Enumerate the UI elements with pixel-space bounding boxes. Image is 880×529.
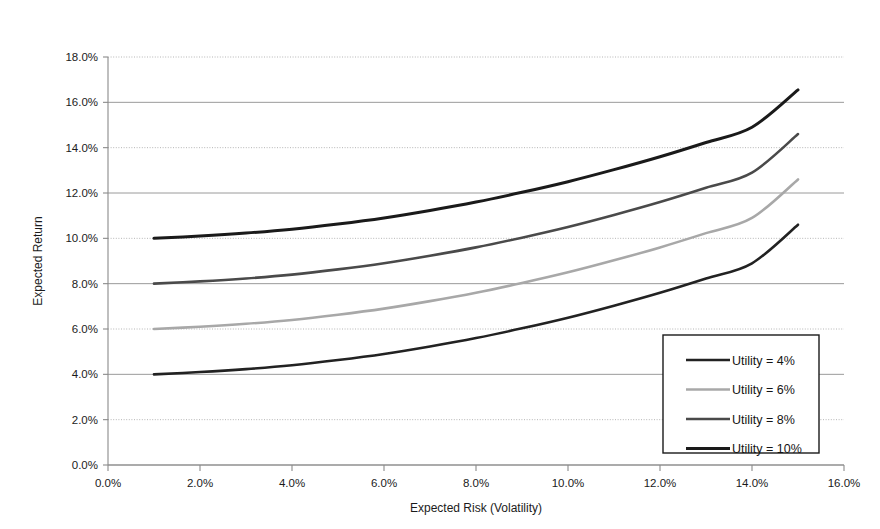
x-tick-label: 12.0% bbox=[644, 477, 677, 489]
y-tick-label: 18.0% bbox=[65, 51, 98, 63]
legend-label: Utility = 8% bbox=[732, 413, 795, 427]
x-tick-label: 0.0% bbox=[95, 477, 121, 489]
x-tick-label: 16.0% bbox=[828, 477, 861, 489]
indifference-curves-chart: 0.0%2.0%4.0%6.0%8.0%10.0%12.0%14.0%16.0%… bbox=[0, 0, 880, 529]
y-tick-label: 12.0% bbox=[65, 187, 98, 199]
x-tick-label: 10.0% bbox=[552, 477, 585, 489]
y-tick-label: 0.0% bbox=[72, 459, 98, 471]
legend-label: Utility = 10% bbox=[732, 442, 802, 456]
y-tick-label: 10.0% bbox=[65, 232, 98, 244]
legend-label: Utility = 6% bbox=[732, 383, 795, 397]
x-tick-label: 2.0% bbox=[187, 477, 213, 489]
x-tick-label: 6.0% bbox=[371, 477, 397, 489]
x-axis-tick-labels: 0.0%2.0%4.0%6.0%8.0%10.0%12.0%14.0%16.0% bbox=[95, 477, 860, 489]
x-axis-title: Expected Risk (Volatility) bbox=[410, 501, 542, 515]
y-tick-label: 8.0% bbox=[72, 278, 98, 290]
y-axis-title: Expected Return bbox=[31, 216, 45, 305]
y-tick-label: 14.0% bbox=[65, 142, 98, 154]
chart-figure: 0.0%2.0%4.0%6.0%8.0%10.0%12.0%14.0%16.0%… bbox=[0, 0, 880, 529]
y-tick-label: 2.0% bbox=[72, 414, 98, 426]
x-tick-label: 4.0% bbox=[279, 477, 305, 489]
y-tick-label: 16.0% bbox=[65, 96, 98, 108]
chart-legend[interactable]: Utility = 4%Utility = 6%Utility = 8%Util… bbox=[663, 335, 819, 456]
x-tick-label: 14.0% bbox=[736, 477, 769, 489]
legend-label: Utility = 4% bbox=[732, 354, 795, 368]
y-tick-label: 4.0% bbox=[72, 368, 98, 380]
y-tick-label: 6.0% bbox=[72, 323, 98, 335]
x-tick-label: 8.0% bbox=[463, 477, 489, 489]
